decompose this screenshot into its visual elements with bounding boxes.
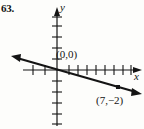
coordinate-plane-graph xyxy=(0,0,144,129)
math-figure: 63. xyxy=(0,0,144,129)
x-axis-label: x xyxy=(134,71,139,82)
origin-point-label: (0,0) xyxy=(56,48,77,60)
point-label-7-neg2: (7,−2) xyxy=(96,94,123,106)
point-marker-7-neg2 xyxy=(116,85,120,89)
line-left-arrowhead-icon xyxy=(11,54,21,62)
y-axis-label: y xyxy=(60,2,65,13)
line-right-arrowhead-icon xyxy=(131,88,142,96)
